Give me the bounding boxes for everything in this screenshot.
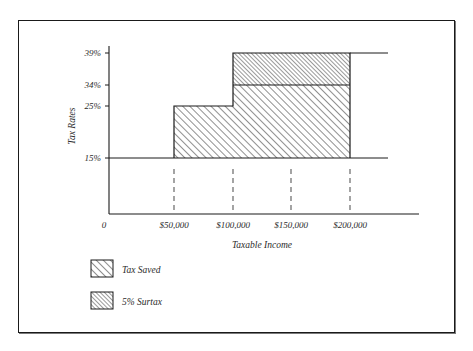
legend-item-5pct-surtax: 5% Surtax — [91, 292, 163, 309]
legend-swatch-5pct-surtax — [91, 292, 113, 309]
x-tick-label-100000: $100,000 — [216, 220, 250, 230]
x-tick-label-50000: $50,000 — [159, 220, 189, 230]
x-tick-droplines — [174, 169, 350, 214]
y-tick-marks — [105, 53, 109, 158]
legend-label-5pct-surtax: 5% Surtax — [122, 297, 163, 307]
y-tick-label-15: 15% — [85, 153, 102, 163]
legend-swatch-tax-saved — [91, 260, 113, 277]
y-axis-title: Tax Rates — [67, 107, 77, 144]
tax-rate-step-chart: 39% 34% 25% 15% 0 $50,000 $100,000 $150,… — [19, 21, 456, 334]
legend-item-tax-saved: Tax Saved — [91, 260, 161, 277]
figure-frame: 39% 34% 25% 15% 0 $50,000 $100,000 $150,… — [18, 20, 455, 333]
legend-label-tax-saved: Tax Saved — [122, 265, 161, 275]
legend: Tax Saved 5% Surtax — [91, 260, 163, 309]
x-tick-label-200000: $200,000 — [333, 220, 367, 230]
y-tick-label-34: 34% — [84, 80, 102, 90]
origin-label: 0 — [102, 220, 107, 230]
y-tick-label-25: 25% — [85, 101, 102, 111]
x-axis-title: Taxable Income — [232, 240, 292, 250]
surtax-region — [233, 53, 350, 85]
tax-saved-region — [174, 85, 350, 158]
series-5pct-surtax — [233, 53, 350, 85]
y-tick-label-39: 39% — [84, 48, 102, 58]
x-tick-label-150000: $150,000 — [274, 220, 308, 230]
series-tax-saved — [174, 85, 350, 158]
